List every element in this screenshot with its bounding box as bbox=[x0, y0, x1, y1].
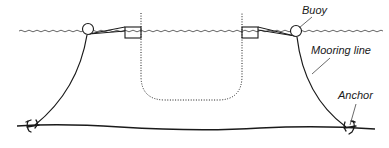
mooring-diagram: Buoy Mooring line Anchor bbox=[0, 0, 389, 148]
float-box-left bbox=[125, 27, 141, 38]
mooring-line-left bbox=[35, 35, 87, 125]
anchor-right-icon bbox=[344, 121, 356, 134]
float-box-right bbox=[242, 27, 258, 38]
water-surface bbox=[19, 30, 383, 32]
diagram-canvas bbox=[0, 0, 389, 148]
mooring-line-label: Mooring line bbox=[311, 45, 371, 56]
net-enclosure bbox=[141, 13, 242, 100]
buoy-leader-line bbox=[299, 17, 312, 28]
seabed bbox=[17, 125, 375, 130]
buoy-label: Buoy bbox=[302, 5, 327, 16]
buoy-left bbox=[83, 24, 94, 35]
mooring-leader-line bbox=[312, 58, 330, 74]
anchor-label: Anchor bbox=[338, 90, 373, 101]
